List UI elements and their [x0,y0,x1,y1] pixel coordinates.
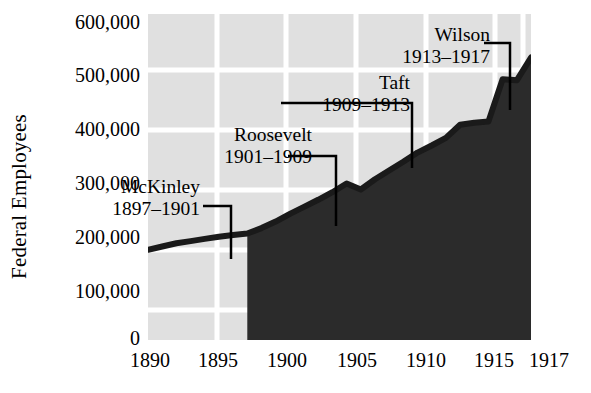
x-tick-label-1917: 1917 [509,349,589,371]
x-tick-label-1895: 1895 [178,349,258,371]
x-axis-tick-labels: 1890 1895 1900 1905 1910 1915 1917 [0,0,591,393]
x-tick-label-1905: 1905 [317,349,397,371]
x-tick-label-1900: 1900 [247,349,327,371]
chart-figure: Federal Employees 600,000 500,000 400,00… [0,0,591,393]
